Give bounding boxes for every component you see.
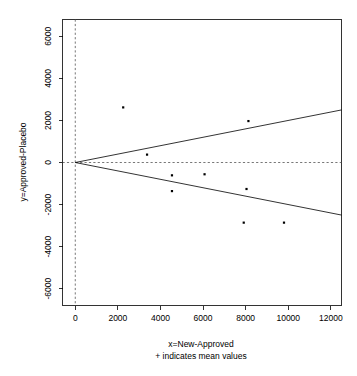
data-point [247,120,249,122]
x-tick-label-4000: 4000 [151,313,170,323]
data-point [171,174,173,176]
y-axis-title: y=Approved-Placebo [18,122,28,201]
x-axis-title: x=New-Approved [168,339,234,349]
data-point [245,188,247,190]
data-point [171,190,173,192]
y-tick-label-0: 0 [43,160,53,165]
lower-funnel-line [75,163,341,216]
data-point [146,154,148,156]
y-tick-label--4000: -4000 [43,235,53,257]
x-tick-label-12000: 12000 [319,313,343,323]
y-tick-label--6000: -6000 [43,278,53,300]
x-axis-subtitle: + indicates mean values [155,351,246,361]
data-point [283,222,285,224]
x-tick-label-2000: 2000 [108,313,127,323]
x-axis-ticks [75,306,331,310]
y-tick-label-2000: 2000 [43,111,53,130]
upper-funnel-line [75,110,341,163]
y-tick-label-6000: 6000 [43,27,53,46]
data-point [122,106,124,108]
x-tick-label-0: 0 [73,313,78,323]
x-axis-tick-labels: 0 2000 4000 6000 8000 10000 12000 [73,313,343,323]
x-tick-label-8000: 8000 [236,313,255,323]
scatter-points [122,106,285,223]
x-tick-label-10000: 10000 [276,313,300,323]
plot-panel-border [63,20,342,306]
chart-figure: 6000 4000 2000 0 -2000 -4000 -6000 0 200… [0,0,357,376]
y-tick-label--2000: -2000 [43,193,53,215]
y-tick-label-4000: 4000 [43,69,53,88]
scatter-plot-svg: 6000 4000 2000 0 -2000 -4000 -6000 0 200… [0,0,357,376]
x-tick-label-6000: 6000 [194,313,213,323]
data-point [203,173,205,175]
y-axis-ticks [59,36,63,288]
data-point [243,222,245,224]
y-axis-tick-labels: 6000 4000 2000 0 -2000 -4000 -6000 [43,27,53,300]
